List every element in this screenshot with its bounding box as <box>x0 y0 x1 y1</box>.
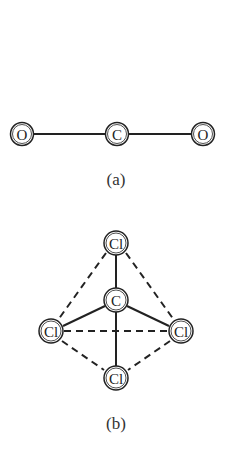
svg-text:Cl: Cl <box>174 324 188 340</box>
svg-text:Cl: Cl <box>109 371 123 387</box>
svg-text:O: O <box>198 127 209 143</box>
atom-oxygen-right: O <box>192 123 215 146</box>
bond-c-cl-left <box>63 306 105 326</box>
edge-dashed-right-bottom <box>128 341 170 370</box>
atom-oxygen-left: O <box>11 123 34 146</box>
svg-text:C: C <box>111 293 121 309</box>
atom-carbon: C <box>106 123 129 146</box>
svg-text:Cl: Cl <box>109 236 123 252</box>
atom-chlorine-top: Cl <box>104 231 128 255</box>
molecule-diagrams: O C O (a) Cl <box>0 0 232 455</box>
bond-c-cl-right <box>127 306 169 326</box>
svg-text:O: O <box>17 127 28 143</box>
figure-b-ccl4: Cl C Cl Cl Cl (b) <box>39 231 193 433</box>
caption-b: (b) <box>106 414 126 433</box>
atom-chlorine-right: Cl <box>169 319 193 343</box>
figure-a-co2: O C O (a) <box>11 123 215 190</box>
atom-carbon-center: C <box>104 288 128 312</box>
atom-chlorine-bottom: Cl <box>104 366 128 390</box>
atom-chlorine-left: Cl <box>39 319 63 343</box>
edge-dashed-left-bottom <box>62 341 104 370</box>
svg-text:C: C <box>112 127 122 143</box>
caption-a: (a) <box>107 170 126 189</box>
svg-text:Cl: Cl <box>44 324 58 340</box>
